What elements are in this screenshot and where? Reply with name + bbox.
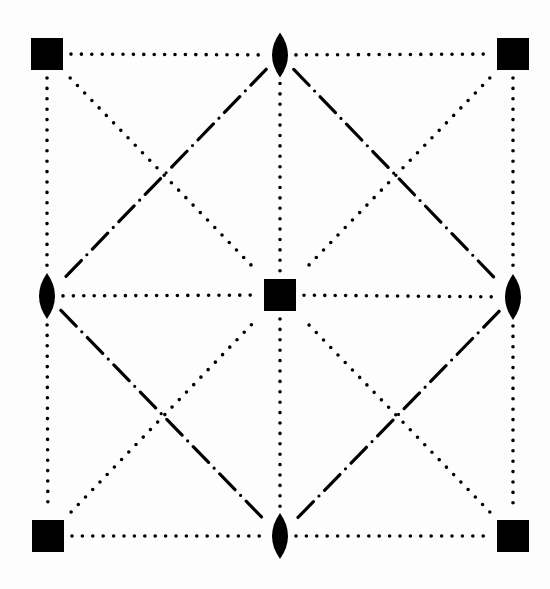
- edge-dotted-left-lens-to-bottom-left-square: [47, 325, 48, 512]
- top-right-square-square-node: [497, 38, 529, 70]
- top-left-square-square-node: [31, 38, 63, 70]
- edge-dotted-center-square-to-right-lens: [304, 295, 497, 297]
- edge-dotted-top-lens-to-top-right-square: [296, 54, 489, 55]
- lattice-diagram: [0, 0, 550, 589]
- bottom-right-square-square-node: [497, 520, 529, 552]
- edge-dotted-left-lens-to-center-square: [63, 295, 256, 296]
- right-lens-lens-node: [505, 274, 521, 320]
- edge-dotted-top-left-square-to-top-lens: [71, 54, 264, 55]
- center-square-square-node: [264, 279, 296, 311]
- bottom-left-square-square-node: [32, 520, 64, 552]
- left-lens-lens-node: [39, 273, 55, 319]
- top-lens-lens-node: [272, 33, 288, 78]
- bottom-lens-lens-node: [272, 513, 288, 559]
